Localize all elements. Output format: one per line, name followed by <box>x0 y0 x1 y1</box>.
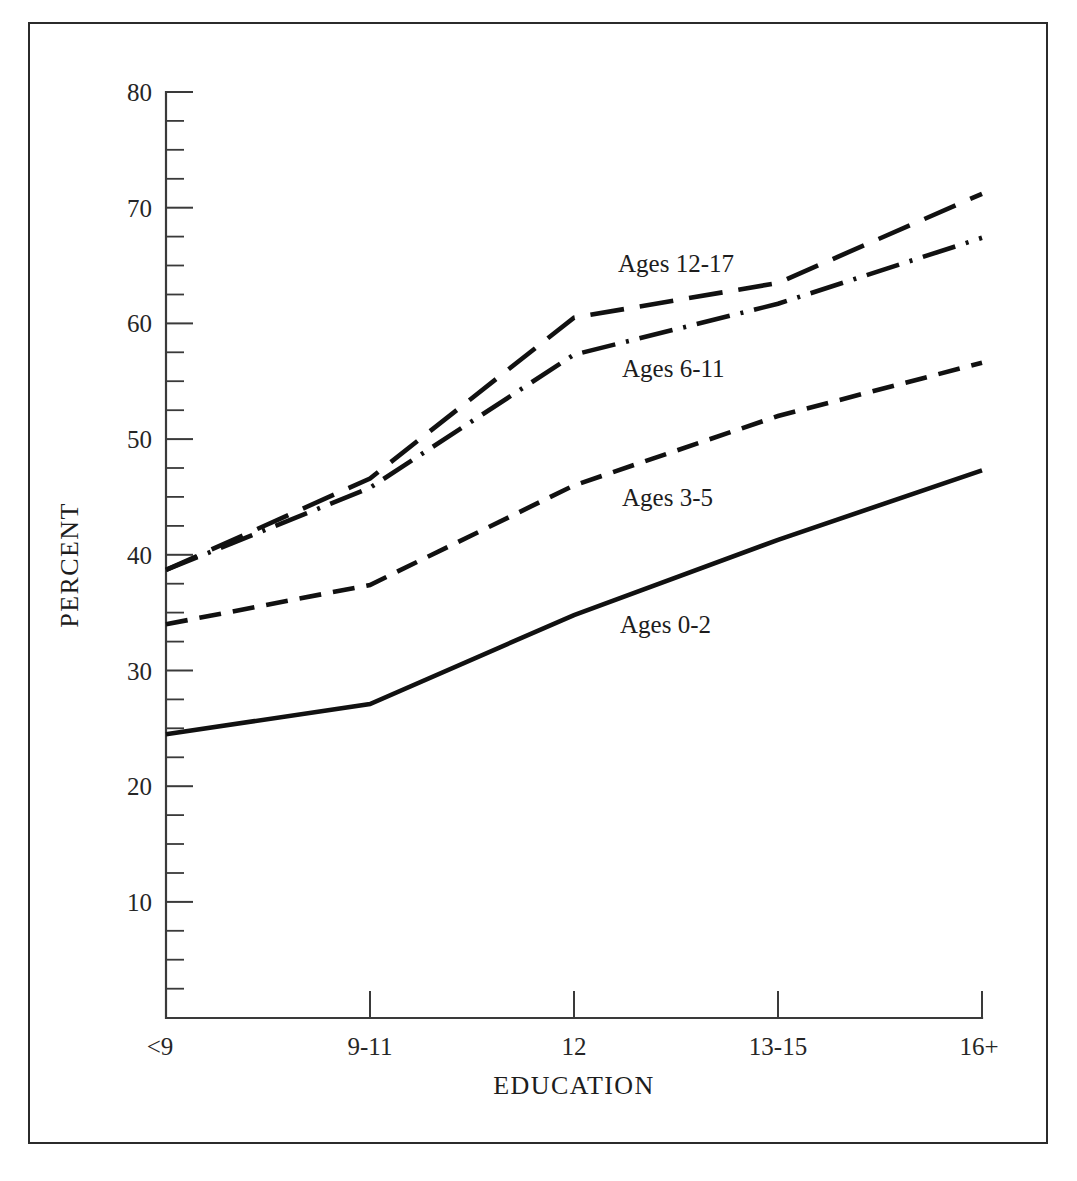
series-line-ages-0-2 <box>166 470 982 734</box>
y-axis-title: PERCENT <box>55 502 84 627</box>
x-tick-label: 16+ <box>959 1033 998 1060</box>
x-axis-tick-labels: <9 9-11 12 13-15 16+ <box>147 1033 999 1060</box>
x-axis-title: EDUCATION <box>493 1071 654 1100</box>
series-line-ages-6-11 <box>166 238 982 570</box>
y-tick-label: 70 <box>127 195 152 222</box>
x-axis-ticks <box>166 991 982 1018</box>
y-axis-ticks <box>166 92 193 989</box>
series-line-ages-3-5 <box>166 363 982 625</box>
series-label-ages-12-17: Ages 12-17 <box>618 250 734 277</box>
series-label-ages-3-5: Ages 3-5 <box>622 484 713 511</box>
y-tick-label: 60 <box>127 310 152 337</box>
y-tick-label: 50 <box>127 426 152 453</box>
series-label-ages-6-11: Ages 6-11 <box>622 355 725 382</box>
y-tick-label: 80 <box>127 79 152 106</box>
y-tick-label: 40 <box>127 542 152 569</box>
x-tick-label: 12 <box>562 1033 587 1060</box>
y-tick-label: 30 <box>127 658 152 685</box>
y-axis-tick-labels: 80 70 60 50 40 30 20 10 <box>127 79 152 916</box>
line-chart: 80 70 60 50 40 30 20 10 PERCENT <9 9-11 … <box>0 0 1077 1181</box>
x-tick-label: 13-15 <box>749 1033 807 1060</box>
y-tick-label: 20 <box>127 773 152 800</box>
figure-page: 80 70 60 50 40 30 20 10 PERCENT <9 9-11 … <box>0 0 1077 1181</box>
chart-axes <box>166 92 982 1018</box>
y-tick-label: 10 <box>127 889 152 916</box>
data-series-group <box>166 194 982 734</box>
x-tick-label: <9 <box>147 1033 174 1060</box>
x-tick-label: 9-11 <box>348 1033 393 1060</box>
series-label-ages-0-2: Ages 0-2 <box>620 611 711 638</box>
